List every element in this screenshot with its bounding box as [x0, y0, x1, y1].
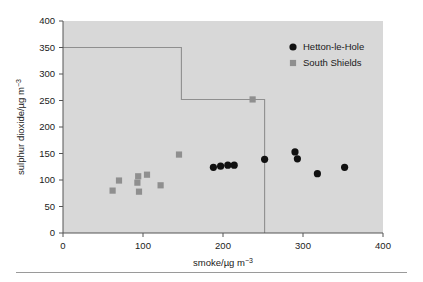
data-point-square — [158, 182, 164, 188]
data-point-circle — [224, 162, 231, 169]
legend-marker-circle — [289, 43, 296, 50]
legend-label: South Shields — [303, 57, 362, 68]
svg-text:sulphur dioxide/µg m−3: sulphur dioxide/µg m−3 — [15, 79, 27, 175]
footer-divider — [16, 272, 407, 273]
legend-marker-square — [290, 60, 296, 66]
data-point-circle — [231, 162, 238, 169]
figure-container: 0100200300400 050100150200250300350400 H… — [0, 0, 423, 282]
data-point-square — [250, 96, 256, 102]
data-point-square — [136, 189, 142, 195]
y-axis-title-exponent: −3 — [15, 79, 22, 87]
y-tick-label: 150 — [39, 148, 55, 159]
x-tick-label: 300 — [295, 240, 311, 251]
y-axis-title-text: sulphur dioxide/µg m — [15, 87, 26, 175]
y-tick-label: 350 — [39, 42, 55, 53]
x-tick-label: 400 — [375, 240, 391, 251]
y-tick-label: 50 — [44, 201, 55, 212]
data-point-circle — [341, 164, 348, 171]
data-point-circle — [217, 163, 224, 170]
data-point-square — [134, 180, 140, 186]
y-tick-label: 400 — [39, 15, 55, 26]
data-point-square — [176, 151, 182, 157]
y-axis-title: sulphur dioxide/µg m−3 — [15, 79, 27, 175]
x-tick-label: 0 — [60, 240, 65, 251]
y-tick-label: 300 — [39, 68, 55, 79]
svg-text:smoke/µg m−3: smoke/µg m−3 — [193, 257, 253, 269]
data-point-square — [116, 177, 122, 183]
legend-label: Hetton-le-Hole — [303, 41, 364, 52]
x-tick-label: 200 — [215, 240, 231, 251]
data-point-circle — [291, 148, 298, 155]
plot-area-background — [63, 21, 383, 233]
data-point-circle — [210, 164, 217, 171]
y-tick-label: 200 — [39, 121, 55, 132]
scatter-plot: 0100200300400 050100150200250300350400 H… — [0, 0, 423, 282]
y-tick-label: 0 — [50, 227, 55, 238]
data-point-circle — [314, 170, 321, 177]
data-point-square — [144, 172, 150, 178]
x-axis-title-exponent: −3 — [245, 257, 253, 264]
y-tick-label: 250 — [39, 95, 55, 106]
x-axis-title: smoke/µg m−3 — [193, 257, 253, 269]
data-point-circle — [294, 155, 301, 162]
data-point-circle — [261, 156, 268, 163]
data-point-square — [110, 188, 116, 194]
x-axis-title-text: smoke/µg m — [193, 257, 245, 268]
y-tick-label: 100 — [39, 174, 55, 185]
x-tick-label: 100 — [135, 240, 151, 251]
data-point-square — [135, 173, 141, 179]
